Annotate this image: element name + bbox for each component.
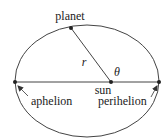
radius-label: r <box>82 55 87 69</box>
aphelion-arrow <box>18 86 28 96</box>
perihelion-point <box>157 80 161 84</box>
theta-label: θ <box>114 65 120 79</box>
orbit-ellipse <box>15 25 159 137</box>
orbit-diagram: planet r θ sun aphelion perihelion <box>0 0 167 140</box>
perihelion-label: perihelion <box>98 94 147 108</box>
perihelion-arrow <box>151 86 157 97</box>
aphelion-label: aphelion <box>31 94 72 108</box>
radius-line <box>71 28 111 82</box>
orbit-svg: planet r θ sun aphelion perihelion <box>0 0 167 140</box>
planet-point <box>69 26 73 30</box>
aphelion-point <box>13 80 17 84</box>
planet-label: planet <box>55 9 85 23</box>
